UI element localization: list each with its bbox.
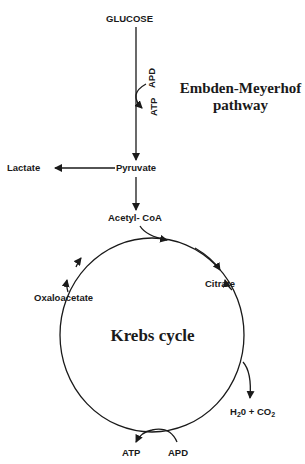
pathway-diagram: GLUCOSE APD ATP Embden-Meyerhof pathway … [0, 0, 305, 464]
cycle-atp-label: ATP [122, 448, 140, 458]
krebs-cycle-title: Krebs cycle [85, 326, 220, 346]
citrate-label: Citrate [205, 279, 235, 289]
pathway-title: Embden-Meyerhof pathway [178, 80, 303, 115]
acetyl-coa-label: Acetyl- CoA [108, 213, 162, 223]
glycolysis-atp-arc [136, 84, 146, 108]
pyruvate-label: Pyruvate [116, 163, 156, 173]
oxaloacetate-label: Oxaloacetate [34, 293, 93, 303]
pathway-title-line2: pathway [213, 97, 268, 113]
lactate-label: Lactate [7, 163, 40, 173]
h2o-co2-label: H20 + CO2 [230, 407, 275, 418]
cycle-apd-label: APD [168, 448, 188, 458]
glycolysis-apd-label: APD [147, 68, 157, 88]
glucose-label: GLUCOSE [106, 14, 153, 24]
co2-release-arrow [243, 362, 250, 398]
glycolysis-atp-label: ATP [149, 98, 159, 116]
pathway-title-line1: Embden-Meyerhof [180, 80, 302, 96]
